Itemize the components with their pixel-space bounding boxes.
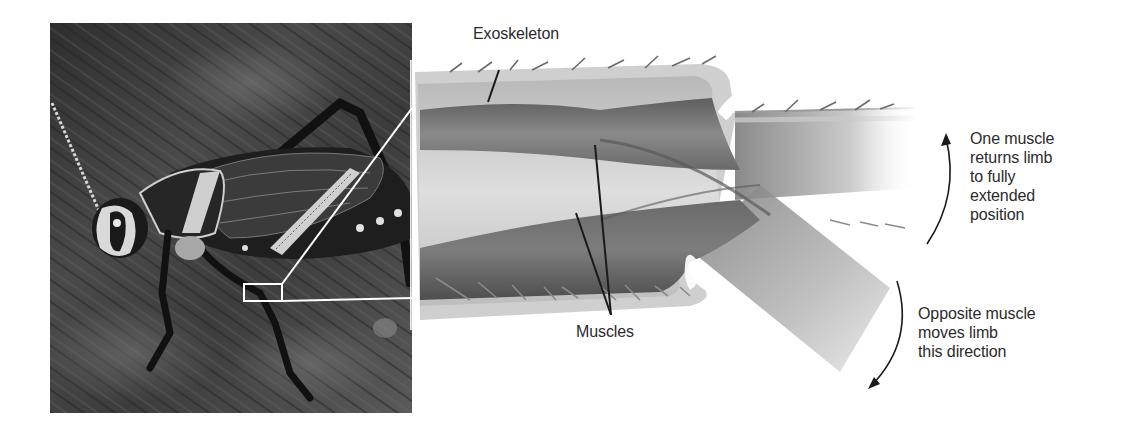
figure: Exoskeleton Muscles One muscle returns l… [0, 0, 1122, 428]
exoskeleton-leader-line [488, 70, 499, 102]
arrow-flex-icon [868, 281, 902, 389]
arrow-extend-icon [927, 133, 951, 244]
opposite-muscle-label: Opposite muscle moves limb this directio… [918, 304, 1098, 361]
flexed-segment [690, 185, 890, 372]
muscles-leader-line-top [595, 145, 611, 315]
muscles [420, 98, 770, 300]
grasshopper-photo [50, 23, 412, 413]
return-muscle-line: position [970, 205, 1110, 224]
return-muscle-line: extended [970, 186, 1110, 205]
exoskeleton-label: Exoskeleton [473, 24, 559, 43]
return-muscle-line: One muscle [970, 129, 1110, 148]
grasshopper-photo-illustration [50, 23, 412, 413]
joint-gap-top [718, 103, 733, 120]
setae-top [450, 56, 894, 112]
extended-segment [735, 108, 915, 200]
return-muscle-line: to fully [970, 167, 1110, 186]
setae-bottom [436, 220, 905, 300]
return-muscle-line: returns limb [970, 148, 1110, 167]
opposite-muscle-line: Opposite muscle [918, 304, 1098, 323]
muscles-label: Muscles [576, 322, 634, 341]
opposite-muscle-line: moves limb [918, 323, 1098, 342]
joint-gap-bottom [685, 255, 699, 290]
exoskeleton [415, 64, 735, 320]
muscles-leader-line-bottom [576, 213, 611, 315]
opposite-muscle-line: this direction [918, 342, 1098, 361]
return-muscle-label: One muscle returns limb to fully extende… [970, 129, 1110, 224]
